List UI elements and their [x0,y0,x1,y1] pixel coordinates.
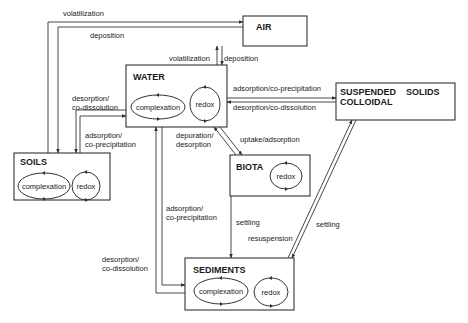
label-water-sediments-adsorption-2: co-precipitation [166,213,217,222]
label-water-sediments-adsorption-1: adsorption/ [166,204,204,213]
label-soils-water-adsorption-1: adsorption/ [85,131,123,140]
label-suspended-water-desorption: desorption/co-dissolution [233,103,316,112]
label-water-soils-desorption-2: co-dissolution [72,103,118,112]
sediments-process-complexation: complexation [199,287,243,296]
label-biota-water-depuration-2: desorption [176,140,211,149]
water-process-complexation: complexation [136,103,180,112]
air-title: AIR [256,22,272,32]
label-water-soils-desorption-1: desorption/ [72,94,110,103]
label-air-soils-deposition: deposition [90,31,124,40]
biota-process-redox: redox [277,172,296,181]
label-biota-water-depuration-1: depuration/ [176,131,214,140]
environmental-cycle-diagram: AIR WATER complexation redox SUSPENDED S… [0,0,468,323]
suspended-title-line1: SUSPENDED SOLIDS [340,87,440,97]
box-biota: BIOTA redox [230,155,310,196]
label-water-biota-uptake: uptake/adsorption [240,135,300,144]
label-soils-air-volatilization: volatilization [63,9,104,18]
sediments-process-redox: redox [262,288,281,297]
box-air: AIR [243,16,307,46]
label-soils-water-adsorption-2: co-precipitation [85,140,136,149]
soils-process-complexation: complexation [22,182,66,191]
label-suspended-sediments-settling: settling [316,220,340,229]
arrow-biota-water-depuration [214,127,236,155]
label-sediments-water-desorption-1: desorption/ [102,255,140,264]
soils-process-redox: redox [77,182,96,191]
biota-title: BIOTA [236,162,264,172]
box-soils: SOILS complexation redox [14,153,110,200]
label-biota-sediments-settling: settling [236,218,260,227]
box-suspended-solids: SUSPENDED SOLIDS COLLOIDAL [336,83,455,120]
arrow-water-biota-uptake [220,127,242,155]
label-water-air-volatilization: volatilization [169,54,210,63]
box-water: WATER complexation redox [126,65,227,127]
label-air-water-deposition: deposition [224,54,258,63]
label-sediments-suspended-resuspension: resuspension [248,234,293,243]
suspended-title-line2: COLLOIDAL [340,97,393,107]
label-water-suspended-adsorption: adsorption/co-precipitation [233,84,321,93]
water-process-redox: redox [196,100,215,109]
sediments-title: SEDIMENTS [193,265,246,275]
label-sediments-water-desorption-2: co-dissolution [102,264,148,273]
soils-title: SOILS [20,157,47,167]
box-sediments: SEDIMENTS complexation redox [185,258,294,310]
water-title: WATER [133,72,165,82]
